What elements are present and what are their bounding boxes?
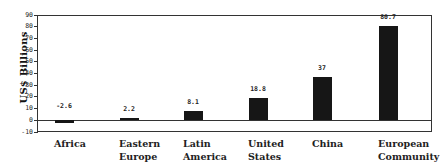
y-tick [34,61,38,62]
y-tick-label: 30 [13,81,33,89]
y-tick [34,108,38,109]
y-tick-label: 40 [13,69,33,77]
y-tick-label: 70 [13,34,33,42]
x-category-label-line: European [378,137,447,150]
y-tick-label: 80 [13,22,33,30]
zero-baseline [37,120,432,121]
y-tick [34,73,38,74]
y-tick [34,96,38,97]
x-category-label: EuropeanCommunity [378,137,447,163]
y-tick [34,120,38,121]
y-tick [34,38,38,39]
bar-value-label: 18.8 [238,85,278,93]
bar-value-label: 80.7 [368,13,408,21]
bar-value-label: 8.1 [173,98,213,106]
bar-value-label: 37 [302,64,342,72]
bar-value-label: 2.2 [109,105,149,113]
bar [249,98,268,120]
y-tick-label: -10 [13,128,33,136]
y-tick [34,50,38,51]
bar-value-label: -2.6 [44,102,84,110]
x-category-label-line: States [248,150,328,163]
bar [184,111,203,120]
y-tick-label: 0 [13,116,33,124]
y-tick [34,26,38,27]
y-tick [34,132,38,133]
y-tick [34,85,38,86]
bar [379,26,398,120]
y-tick-label: 20 [13,92,33,100]
bar [120,118,139,121]
bar-chart: US$ Billions -100102030405060708090 -2.6… [0,0,447,167]
y-tick-label: 10 [13,104,33,112]
bar [55,120,74,123]
y-tick-label: 60 [13,46,33,54]
y-tick-label: 90 [13,11,33,19]
bar [313,77,332,120]
x-category-label-line: Community [378,150,447,163]
plot-frame [37,15,432,132]
y-tick [34,15,38,16]
y-tick-label: 50 [13,57,33,65]
